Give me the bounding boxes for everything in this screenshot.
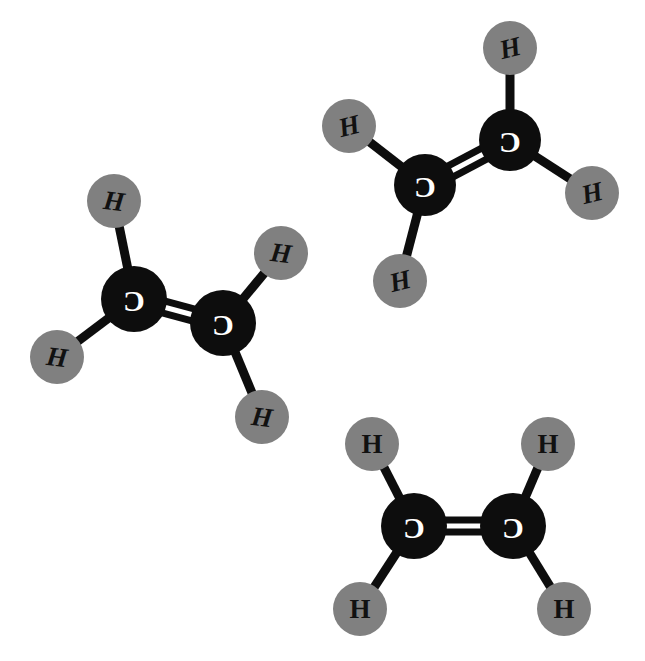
hydrogen-atom-m3-h4[interactable]: H bbox=[537, 582, 591, 636]
molecule-diagram-canvas: CCHHHHCCHHHHCCHHHH bbox=[0, 0, 645, 661]
carbon-sphere bbox=[381, 493, 447, 559]
hydrogen-sphere bbox=[345, 417, 399, 471]
hydrogen-atom-m1-h3[interactable]: H bbox=[254, 226, 308, 280]
hydrogen-sphere bbox=[373, 254, 427, 308]
carbon-sphere bbox=[480, 493, 546, 559]
hydrogen-atom-m1-h2[interactable]: H bbox=[30, 330, 84, 384]
carbon-atom-m1-c2[interactable]: C bbox=[190, 290, 256, 356]
hydrogen-sphere bbox=[537, 582, 591, 636]
carbon-atom-m2-c1[interactable]: C bbox=[394, 154, 456, 216]
molecule-scene-svg: CCHHHHCCHHHHCCHHHH bbox=[0, 0, 645, 661]
hydrogen-atom-m3-h1[interactable]: H bbox=[345, 417, 399, 471]
hydrogen-atom-m2-h3[interactable]: H bbox=[483, 21, 537, 75]
hydrogen-sphere bbox=[521, 417, 575, 471]
carbon-atom-m3-c1[interactable]: C bbox=[381, 493, 447, 559]
hydrogen-atom-m3-h3[interactable]: H bbox=[521, 417, 575, 471]
hydrogen-atom-m1-h4[interactable]: H bbox=[235, 390, 289, 444]
carbon-atom-m3-c2[interactable]: C bbox=[480, 493, 546, 559]
hydrogen-sphere bbox=[565, 166, 619, 220]
carbon-sphere bbox=[394, 154, 456, 216]
hydrogen-sphere bbox=[483, 21, 537, 75]
carbon-atom-m2-c2[interactable]: C bbox=[479, 109, 541, 171]
hydrogen-sphere bbox=[254, 226, 308, 280]
hydrogen-sphere bbox=[333, 582, 387, 636]
hydrogen-sphere bbox=[87, 174, 141, 228]
hydrogen-atom-m3-h2[interactable]: H bbox=[333, 582, 387, 636]
carbon-sphere bbox=[101, 266, 167, 332]
carbon-atom-m1-c1[interactable]: C bbox=[101, 266, 167, 332]
carbon-sphere bbox=[479, 109, 541, 171]
carbon-sphere bbox=[190, 290, 256, 356]
hydrogen-sphere bbox=[235, 390, 289, 444]
hydrogen-atom-m2-h1[interactable]: H bbox=[322, 99, 376, 153]
hydrogen-sphere bbox=[30, 330, 84, 384]
hydrogen-sphere bbox=[322, 99, 376, 153]
hydrogen-atom-m2-h4[interactable]: H bbox=[565, 166, 619, 220]
hydrogen-atom-m1-h1[interactable]: H bbox=[87, 174, 141, 228]
hydrogen-atom-m2-h2[interactable]: H bbox=[373, 254, 427, 308]
